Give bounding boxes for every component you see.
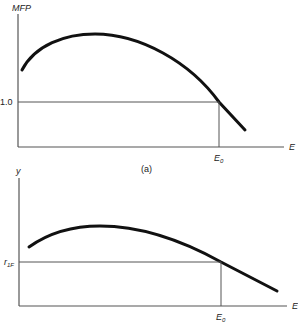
panel-a: MFP E 1.0 E0 (a) — [0, 3, 296, 174]
x-axis-label-e: E — [289, 142, 296, 152]
y-axis-label-mfp: MFP — [12, 3, 31, 13]
y-axis-label-y: y — [15, 166, 21, 176]
x-axis-label-e: E — [292, 301, 298, 311]
y-curve — [29, 226, 277, 291]
y-marker-r1f: r1F — [4, 257, 14, 268]
x-marker-e0-a: E0 — [214, 153, 224, 164]
panel-b: y E r1F E0 — [4, 166, 298, 323]
mfp-curve — [22, 34, 245, 130]
panel-caption-a: (a) — [141, 164, 152, 174]
diagram-canvas: MFP E 1.0 E0 (a) y E r1F E0 — [0, 0, 298, 331]
y-marker-1-0: 1.0 — [0, 97, 13, 107]
x-marker-e0-b: E0 — [216, 312, 226, 323]
